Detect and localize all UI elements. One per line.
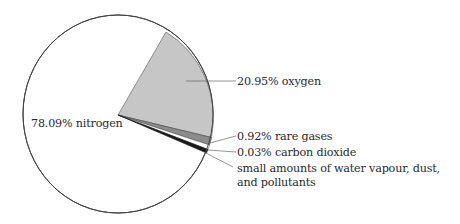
label-small-amounts-line1: small amounts of water vapour, dust, bbox=[237, 162, 440, 175]
label-nitrogen: 78.09% nitrogen bbox=[31, 117, 123, 130]
leader-line-carbon-dioxide bbox=[208, 150, 236, 152]
label-oxygen: 20.95% oxygen bbox=[237, 75, 321, 88]
leader-line-rare-gases bbox=[210, 136, 236, 143]
leader-line-small-amounts bbox=[206, 153, 233, 167]
label-small-amounts-line2: and pollutants bbox=[237, 176, 316, 189]
label-carbon-dioxide: 0.03% carbon dioxide bbox=[237, 146, 356, 159]
label-rare-gases: 0.92% rare gases bbox=[237, 130, 332, 143]
atmosphere-pie-chart bbox=[0, 0, 460, 224]
